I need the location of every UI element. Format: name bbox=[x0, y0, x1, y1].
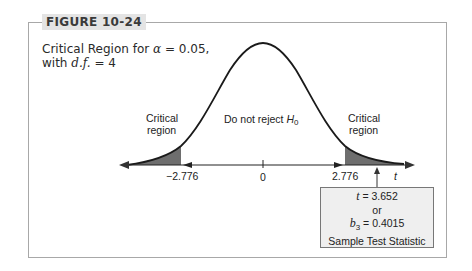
left-region-label-2: region bbox=[147, 124, 176, 136]
right-critical-region bbox=[345, 146, 404, 165]
do-not-reject-label: Do not reject H0 bbox=[224, 113, 299, 127]
axis-arrow-left bbox=[119, 161, 129, 169]
axis-arrow-right bbox=[405, 161, 415, 169]
interval-arrow-left bbox=[183, 162, 192, 168]
right-region-label-1: Critical bbox=[348, 112, 380, 124]
tick-label-zero: 0 bbox=[260, 171, 266, 183]
tick-label-pos: 2.776 bbox=[332, 170, 358, 182]
interval-arrow-right bbox=[334, 162, 343, 168]
sample-test-statistic-box: t = 3.652 or b3 = 0.4015 Sample Test Sta… bbox=[320, 187, 434, 248]
right-region-label-2: region bbox=[349, 124, 378, 136]
tick-label-neg: −2.776 bbox=[166, 170, 199, 182]
left-critical-region bbox=[127, 146, 181, 165]
left-region-label-1: Critical bbox=[146, 112, 178, 124]
axis-label-t: t bbox=[394, 170, 398, 182]
density-curve bbox=[127, 43, 404, 165]
test-stat-arrowhead bbox=[374, 167, 380, 174]
